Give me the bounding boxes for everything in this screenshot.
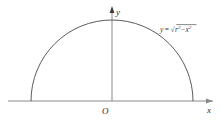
equation-lhs: y	[159, 25, 164, 34]
equation-group: y=√r2−x2	[159, 25, 192, 34]
y-axis-label: y	[115, 7, 120, 17]
curve-equation-label: y=√r2−x2	[159, 25, 197, 34]
equation-equals: =	[165, 25, 169, 34]
origin-label: O	[102, 106, 109, 116]
semicircle-diagram: y x O y=√r2−x2	[0, 0, 223, 123]
x-axis-label: x	[206, 105, 211, 115]
equation-radicand-exp-2: 2	[189, 25, 192, 30]
equation-minus: −	[181, 25, 185, 34]
y-axis-arrowhead	[110, 6, 115, 13]
x-axis-arrowhead	[206, 99, 213, 104]
figure-container: y x O y=√r2−x2	[0, 0, 223, 123]
